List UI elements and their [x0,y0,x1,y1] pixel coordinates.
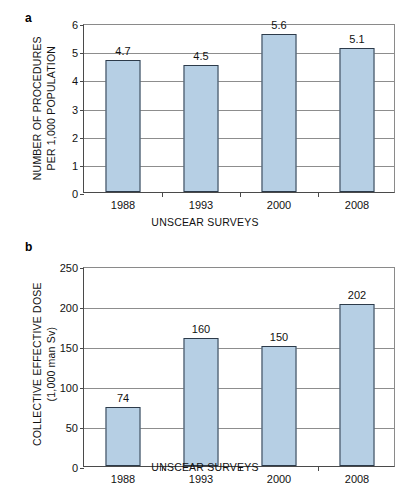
bar-value-label: 150 [270,332,288,343]
bar-value-label: 160 [192,324,210,335]
bar-series-b: 741988160199315020002022008 [84,268,394,466]
bar [340,48,375,192]
y-axis-tick-label: 3 [72,104,78,115]
bar-group: 5.62000 [240,25,318,192]
y-axis-tick-label: 4 [72,76,78,87]
bar-value-label: 4.5 [193,51,208,62]
y-axis-tick-label: 0 [72,189,78,200]
plot-area-b: 050100150200250 741988160199315020002022… [83,267,395,467]
y-axis-tick-label: 2 [72,132,78,143]
x-axis-title-a: UNSCEAR SURVEYS [0,217,410,228]
bar-value-label: 202 [348,290,366,301]
x-axis-tick-label: 1988 [111,474,135,485]
bar [106,407,141,466]
bar-group: 2022008 [318,268,396,466]
bar [106,60,141,192]
y-axis-tick-label: 250 [60,263,78,274]
y-axis-title-b-line2: (1,000 man Sv) [44,264,58,464]
panel-letter-b: b [25,241,32,253]
y-axis-tick-label: 6 [72,20,78,31]
x-axis-tick-label: 2000 [267,474,291,485]
y-axis-title-b-line1: COLLECTIVE EFFECTIVE DOSE [31,282,43,446]
x-axis-tick-mark [318,192,319,197]
bar [262,346,297,466]
y-axis-tick-label: 1 [72,160,78,171]
x-axis-tick-mark [162,192,163,197]
y-axis-tick-label: 150 [60,343,78,354]
bar [340,304,375,466]
bar [184,338,219,466]
y-axis-title-b: COLLECTIVE EFFECTIVE DOSE (1,000 man Sv) [30,264,58,464]
y-axis-tick-label: 100 [60,383,78,394]
bar-series-a: 4.719884.519935.620005.12008 [84,25,394,192]
bar-group: 1502000 [240,268,318,466]
bar-group: 4.51993 [162,25,240,192]
bar-value-label: 4.7 [115,46,130,57]
y-axis-tick-mark [80,194,84,195]
bar [262,34,297,192]
x-axis-tick-mark [240,192,241,197]
y-axis-tick-label: 5 [72,48,78,59]
x-axis-tick-label: 1993 [189,474,213,485]
chart-panel-b: b COLLECTIVE EFFECTIVE DOSE (1,000 man S… [0,232,410,493]
y-axis-tick-label: 200 [60,303,78,314]
bar-group: 1601993 [162,268,240,466]
x-axis-tick-label: 2008 [345,200,369,211]
x-axis-tick-label: 2000 [267,200,291,211]
x-axis-tick-label: 1993 [189,200,213,211]
bar-value-label: 74 [117,393,129,404]
bar-group: 4.71988 [84,25,162,192]
bar [184,65,219,192]
bar-value-label: 5.6 [271,20,286,31]
bar-group: 741988 [84,268,162,466]
x-axis-tick-label: 2008 [345,474,369,485]
chart-panel-a: a NUMBER OF PROCEDURES PER 1,000 POPULAT… [0,0,410,246]
y-axis-title-a: NUMBER OF PROCEDURES PER 1,000 POPULATIO… [30,8,58,208]
y-axis-tick-label: 50 [66,423,78,434]
x-axis-title-b: UNSCEAR SURVEYS [0,462,410,473]
x-axis-tick-label: 1988 [111,200,135,211]
plot-area-a: 0123456 4.719884.519935.620005.12008 [83,24,395,193]
bar-group: 5.12008 [318,25,396,192]
bar-value-label: 5.1 [349,34,364,45]
figure: a NUMBER OF PROCEDURES PER 1,000 POPULAT… [0,0,410,493]
y-axis-title-a-line1: NUMBER OF PROCEDURES [31,36,43,180]
y-axis-title-a-line2: PER 1,000 POPULATION [44,8,58,208]
